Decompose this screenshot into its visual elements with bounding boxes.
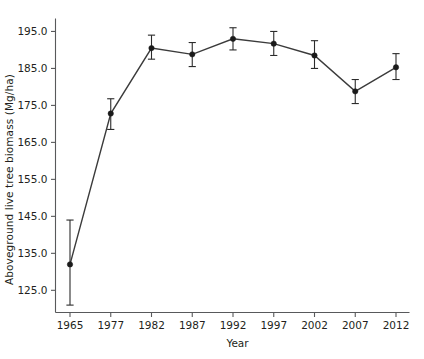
x-tick-label: 1987 — [179, 319, 206, 331]
x-tick-label: 1977 — [97, 319, 124, 331]
y-tick-label: 195.0 — [17, 25, 47, 37]
y-tick-label: 155.0 — [17, 173, 47, 185]
y-tick-label: 185.0 — [17, 62, 47, 74]
data-point-marker — [108, 111, 113, 116]
y-tick-label: 145.0 — [17, 210, 47, 222]
plot-area: 125.0135.0145.0155.0165.0175.0185.0195.0… — [0, 0, 424, 359]
chart-figure: Aboveground live tree biomass (Mg/ha) Ye… — [0, 0, 424, 359]
x-tick-label: 1992 — [220, 319, 247, 331]
data-point-marker — [353, 89, 358, 94]
data-point-marker — [393, 65, 398, 70]
y-tick-label: 125.0 — [17, 284, 47, 296]
x-tick-label: 1965 — [57, 319, 84, 331]
y-tick-label: 175.0 — [17, 99, 47, 111]
y-tick-label: 165.0 — [17, 136, 47, 148]
data-point-marker — [230, 36, 235, 41]
x-tick-label: 2007 — [342, 319, 369, 331]
x-tick-label: 2012 — [383, 319, 410, 331]
x-tick-label: 2002 — [301, 319, 328, 331]
data-point-marker — [271, 41, 276, 46]
series-line — [70, 39, 396, 265]
x-tick-label: 1982 — [138, 319, 165, 331]
data-point-marker — [190, 52, 195, 57]
y-tick-label: 135.0 — [17, 247, 47, 259]
x-tick-label: 1997 — [260, 319, 287, 331]
y-axis: 125.0135.0145.0155.0165.0175.0185.0195.0 — [17, 19, 55, 313]
data-point-marker — [312, 53, 317, 58]
data-series — [66, 28, 399, 305]
data-point-marker — [67, 262, 72, 267]
x-axis: 196519771982198719921997200220072012 — [56, 313, 410, 332]
data-point-marker — [149, 45, 154, 50]
